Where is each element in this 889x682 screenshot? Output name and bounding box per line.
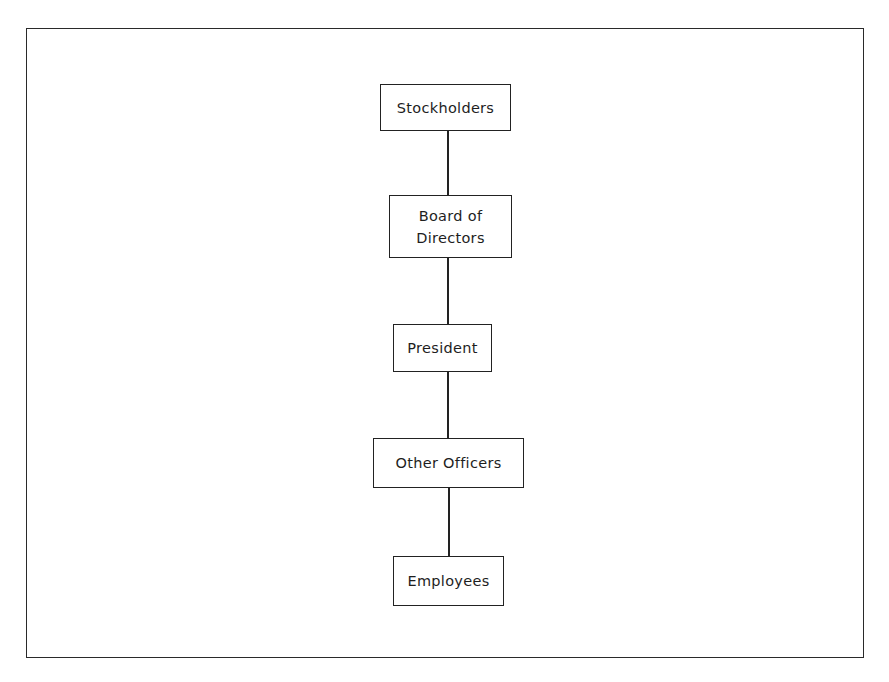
connector-officers-employees bbox=[448, 487, 450, 557]
node-president: President bbox=[393, 324, 492, 372]
node-board-of-directors: Board of Directors bbox=[389, 195, 512, 258]
connector-stockholders-board bbox=[447, 130, 449, 196]
connector-president-officers bbox=[447, 371, 449, 439]
node-label: Stockholders bbox=[397, 97, 494, 119]
node-label: Board of Directors bbox=[416, 205, 485, 249]
node-label: Employees bbox=[407, 570, 489, 592]
node-other-officers: Other Officers bbox=[373, 438, 524, 488]
node-employees: Employees bbox=[393, 556, 504, 606]
node-label: Other Officers bbox=[395, 452, 501, 474]
connector-board-president bbox=[447, 257, 449, 325]
node-stockholders: Stockholders bbox=[380, 84, 511, 131]
node-label: President bbox=[407, 337, 477, 359]
